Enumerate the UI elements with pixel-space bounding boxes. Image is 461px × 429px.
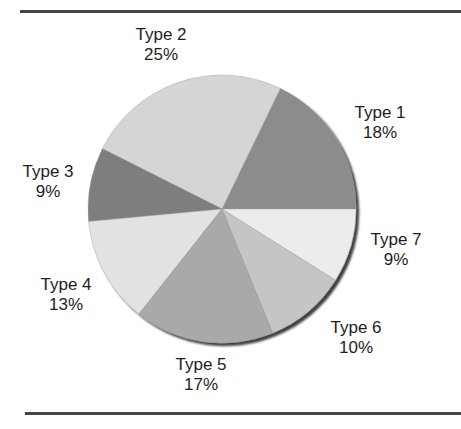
slice-label-percent: 17% — [175, 375, 226, 395]
slice-label-type-5: Type 517% — [175, 355, 226, 395]
slice-label-name: Type 3 — [22, 162, 73, 182]
slice-label-percent: 9% — [370, 250, 421, 270]
slice-label-name: Type 1 — [354, 103, 405, 123]
slice-label-type-7: Type 79% — [370, 230, 421, 270]
slice-label-name: Type 5 — [175, 355, 226, 375]
pie-slices — [88, 75, 356, 343]
slice-label-name: Type 6 — [330, 318, 381, 338]
slice-label-type-1: Type 118% — [354, 103, 405, 143]
slice-label-percent: 9% — [22, 182, 73, 202]
pie-chart — [0, 0, 461, 429]
slice-label-percent: 18% — [354, 123, 405, 143]
slice-label-name: Type 2 — [135, 25, 186, 45]
slice-label-type-6: Type 610% — [330, 318, 381, 358]
slice-label-type-2: Type 225% — [135, 25, 186, 65]
slice-label-name: Type 7 — [370, 230, 421, 250]
slice-label-type-3: Type 39% — [22, 162, 73, 202]
slice-label-percent: 13% — [40, 295, 91, 315]
slice-label-percent: 10% — [330, 338, 381, 358]
slice-label-name: Type 4 — [40, 275, 91, 295]
slice-label-percent: 25% — [135, 45, 186, 65]
slice-label-type-4: Type 413% — [40, 275, 91, 315]
